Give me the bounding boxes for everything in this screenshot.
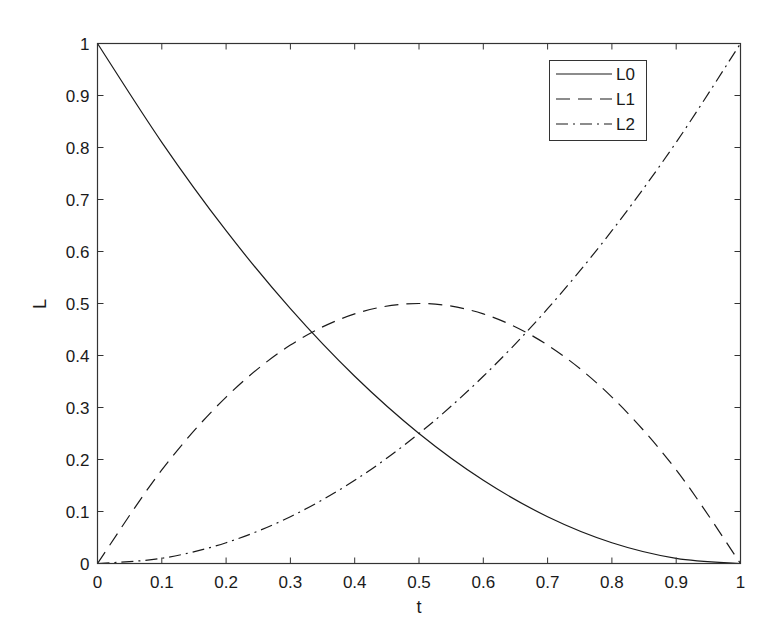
y-tick-label: 0.6 [66, 243, 90, 262]
x-tick-labels: 00.10.20.30.40.50.60.70.80.91 [93, 573, 745, 592]
x-tick-label: 1 [736, 573, 745, 592]
x-tick-label: 0.9 [664, 573, 688, 592]
y-tick-labels: 00.10.20.30.40.50.60.70.80.91 [66, 35, 90, 574]
x-tick-label: 0.6 [471, 573, 495, 592]
x-tick-label: 0.3 [279, 573, 303, 592]
y-tick-label: 1 [80, 35, 89, 54]
svg-text:L1: L1 [616, 90, 635, 109]
y-tick-label: 0.9 [66, 87, 90, 106]
y-tick-label: 0.2 [66, 451, 90, 470]
y-axis-label: L [30, 299, 50, 309]
x-tick-label: 0.8 [600, 573, 624, 592]
y-tick-label: 0.8 [66, 139, 90, 158]
y-tick-label: 0.7 [66, 191, 90, 210]
x-tick-label: 0.4 [343, 573, 367, 592]
line-chart: 00.10.20.30.40.50.60.70.80.91 00.10.20.3… [0, 0, 779, 623]
x-tick-label: 0.7 [536, 573, 560, 592]
svg-text:L2: L2 [616, 115, 635, 134]
x-tick-label: 0.1 [150, 573, 174, 592]
y-tick-label: 0.5 [66, 295, 90, 314]
svg-text:L0: L0 [616, 65, 635, 84]
y-tick-label: 0.4 [66, 347, 90, 366]
y-tick-label: 0 [80, 555, 89, 574]
x-tick-label: 0.2 [214, 573, 238, 592]
x-tick-label: 0 [93, 573, 102, 592]
x-axis-label: t [416, 597, 421, 617]
x-tick-label: 0.5 [407, 573, 431, 592]
y-tick-label: 0.3 [66, 399, 90, 418]
y-tick-label: 0.1 [66, 503, 90, 522]
legend: L0L1L2 [550, 61, 647, 141]
